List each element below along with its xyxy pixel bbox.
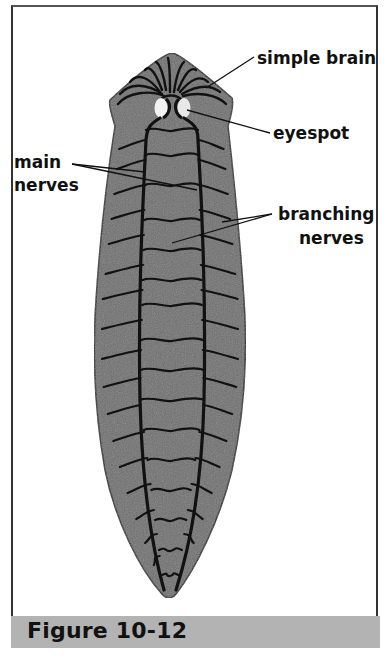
label-main-nerves-line1: main — [14, 152, 61, 172]
label-main-nerves-line2: nerves — [14, 175, 79, 195]
planarian-diagram: simple brain eyespot main nerves branchi… — [0, 0, 390, 658]
figure-caption: Figure 10-12 — [27, 618, 187, 643]
leader-simple-brain — [206, 57, 254, 88]
label-branching-nerves-line1: branching — [278, 204, 374, 224]
caption-band: Figure 10-12 — [11, 616, 380, 648]
label-eyespot: eyespot — [273, 123, 349, 143]
label-simple-brain: simple brain — [257, 48, 376, 68]
label-branching-nerves-line2: nerves — [299, 228, 364, 248]
